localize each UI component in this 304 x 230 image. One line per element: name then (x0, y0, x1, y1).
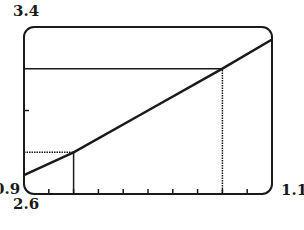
annotation-lines (24, 69, 222, 194)
function-curve (24, 40, 272, 176)
y-min-label: 2.6 (13, 197, 39, 212)
y-max-label: 3.4 (13, 4, 39, 19)
chart-plot (0, 0, 304, 230)
x-max-label: 1.1 (281, 183, 304, 198)
